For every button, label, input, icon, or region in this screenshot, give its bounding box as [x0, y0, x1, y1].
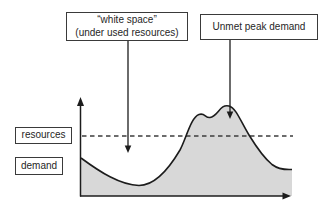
- white-space-callout-line1: “white space”: [97, 14, 156, 27]
- unmet-peak-demand-label: Unmet peak demand: [213, 21, 306, 34]
- y-axis-arrowhead-icon: [77, 97, 84, 106]
- demand-label-box: demand: [15, 157, 63, 175]
- white-space-callout: “white space” (under used resources): [66, 12, 188, 41]
- white-space-arrowhead-icon: [125, 146, 132, 154]
- demand-label: demand: [21, 160, 57, 173]
- resources-label-box: resources: [15, 127, 72, 144]
- unmet-peak-demand-callout: Unmet peak demand: [200, 14, 318, 40]
- diagram-canvas: “white space” (under used resources) Unm…: [0, 0, 334, 208]
- resources-label: resources: [22, 129, 66, 142]
- white-space-callout-line2: (under used resources): [75, 27, 178, 40]
